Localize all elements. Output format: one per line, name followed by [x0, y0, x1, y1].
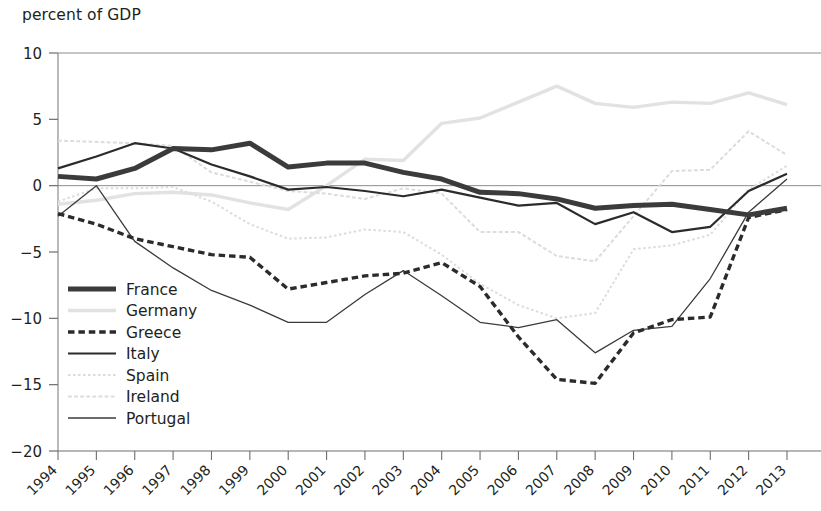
x-tick-label: 2004 [407, 462, 444, 499]
legend-label-spain: Spain [126, 367, 169, 385]
y-tick-label: 5 [32, 111, 42, 129]
x-tick-label: 2002 [331, 462, 368, 499]
x-tick-label: 2007 [522, 462, 559, 499]
x-tick-label: 1994 [24, 462, 61, 499]
legend-label-greece: Greece [126, 324, 181, 342]
y-tick-label: −15 [10, 376, 42, 394]
x-tick-label: 2003 [369, 462, 406, 499]
x-tick-label: 2013 [753, 462, 790, 499]
y-axis-group: 1050−5−10−15−20 [10, 45, 58, 461]
x-tick-label: 2008 [561, 462, 598, 499]
y-tick-label: −5 [20, 244, 42, 262]
x-tick-label: 2012 [714, 462, 751, 499]
chart-legend: FranceGermanyGreeceItalySpainIrelandPort… [68, 281, 197, 428]
legend-label-ireland: Ireland [126, 388, 180, 406]
x-tick-label: 2011 [676, 462, 713, 499]
legend-label-portugal: Portugal [126, 410, 190, 428]
x-tick-label: 1999 [215, 462, 252, 499]
chart-container: percent of GDP 1050−5−10−15−20 199419951… [0, 0, 821, 511]
x-tick-label: 2005 [446, 462, 483, 499]
legend-label-france: France [126, 281, 178, 299]
x-tick-label: 2010 [638, 462, 675, 499]
legend-label-germany: Germany [126, 302, 197, 320]
legend-label-italy: Italy [126, 345, 160, 363]
x-tick-label: 1996 [100, 462, 137, 499]
y-tick-label: 0 [32, 177, 42, 195]
y-tick-label: −10 [10, 310, 42, 328]
line-chart-plot: 1050−5−10−15−20 199419951996199719981999… [0, 0, 821, 511]
x-tick-label: 1998 [177, 462, 214, 499]
x-tick-label: 2006 [484, 462, 521, 499]
x-tick-label: 2001 [292, 462, 329, 499]
x-tick-label: 1995 [62, 462, 99, 499]
x-tick-label: 2000 [254, 462, 291, 499]
x-axis-group: 1994199519961997199819992000200120022003… [24, 451, 790, 498]
y-tick-label: 10 [23, 45, 42, 63]
x-tick-label: 1997 [139, 462, 176, 499]
series-line-france [58, 143, 787, 215]
y-tick-label: −20 [10, 443, 42, 461]
x-tick-label: 2009 [599, 462, 636, 499]
